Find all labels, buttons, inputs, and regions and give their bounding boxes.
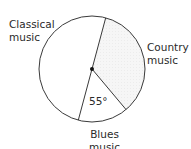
center-dot [90,67,94,71]
label-classical-music: Classical music [9,18,55,44]
label-country-music: Country music [147,41,189,67]
label-country-line2: music [147,54,189,67]
label-blues-line2: music [89,141,120,149]
label-classical-line1: Classical [9,18,55,31]
angle-annotation: 55° [89,96,108,107]
label-country-line1: Country [147,41,189,54]
label-blues-music: Blues music [89,128,120,149]
label-classical-line2: music [9,31,55,44]
label-blues-line1: Blues [89,128,120,141]
